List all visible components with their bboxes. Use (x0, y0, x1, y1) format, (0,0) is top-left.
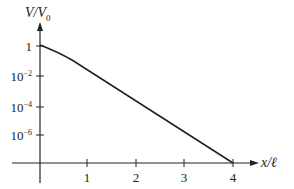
y-axis-label: V/V0 (25, 6, 51, 23)
y-tick-label-1: 1 (2, 40, 32, 53)
y-tick-label-1e-4: 10−4 (2, 101, 32, 114)
y-tick-label-1e-2: 10−2 (2, 70, 32, 83)
y-tick-label-1e-6: 10−6 (2, 129, 32, 142)
x-axis-label: x/ℓ (261, 156, 277, 170)
data-line (40, 45, 233, 163)
y-axis-arrow-icon (37, 22, 43, 31)
x-tick-label-2: 2 (129, 171, 143, 184)
x-tick-label-1: 1 (80, 171, 94, 184)
x-tick-label-4: 4 (226, 171, 240, 184)
chart: V/V0 1 10−2 10−4 10−6 1 2 3 4 x/ℓ (0, 0, 294, 189)
chart-plot (0, 0, 294, 189)
x-axis-arrow-icon (250, 160, 259, 166)
x-tick-label-3: 3 (177, 171, 191, 184)
